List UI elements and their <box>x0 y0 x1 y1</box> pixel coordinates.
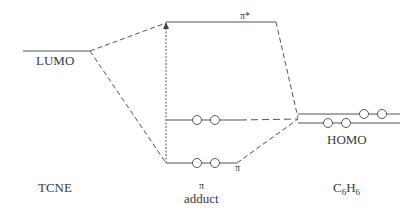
correlation-lumo-to-pi-star <box>90 23 166 51</box>
electron-icon <box>211 159 220 168</box>
hydrogen-count: 6 <box>356 187 361 197</box>
benzene-column-label: C6H6 <box>333 180 360 197</box>
electron-icon <box>193 159 202 168</box>
correlation-pi-star-to-homo <box>276 22 298 118</box>
electron-icon <box>211 116 220 125</box>
adduct-pi-symbol: π <box>199 180 204 191</box>
pi-star-label: π* <box>240 10 250 21</box>
electron-icon <box>193 116 202 125</box>
correlation-pi-to-homo <box>237 119 298 163</box>
correlation-middle-to-homo <box>240 119 298 120</box>
correlation-lumo-to-pi <box>90 51 166 163</box>
carbon-symbol: C <box>333 180 342 195</box>
tcne-column-label: TCNE <box>38 180 72 196</box>
electron-icon <box>378 110 387 119</box>
pi-label: π <box>235 162 240 173</box>
arrowhead-icon <box>163 22 169 29</box>
adduct-column-label: adduct <box>184 191 219 207</box>
electron-icon <box>324 119 333 128</box>
lumo-label: LUMO <box>36 53 74 69</box>
electron-icon <box>342 119 351 128</box>
homo-label: HOMO <box>327 132 367 148</box>
electron-icon <box>360 110 369 119</box>
hydrogen-symbol: H <box>346 180 355 195</box>
